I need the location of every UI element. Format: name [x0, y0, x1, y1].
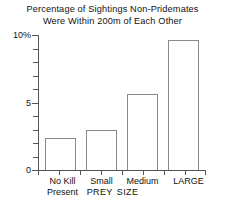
y-tick-4	[33, 116, 38, 117]
bar-small	[86, 130, 117, 171]
y-tick-9	[33, 49, 38, 50]
bar-medium	[127, 94, 158, 170]
x-tick-6	[164, 170, 165, 175]
category-label-large-line-1: LARGE	[173, 176, 204, 186]
y-tick-label-10: 10%	[13, 30, 31, 40]
y-tick-1	[33, 157, 38, 158]
y-tick-3	[33, 130, 38, 131]
x-tick-0	[38, 170, 39, 175]
chart-title: Percentage of Sightings Non-Pridemates W…	[0, 3, 225, 27]
chart-title-line-1: Percentage of Sightings Non-Pridemates	[0, 3, 225, 15]
y-tick-10	[32, 35, 38, 36]
x-tick-8	[205, 170, 206, 175]
x-tick-4	[122, 170, 123, 175]
y-tick-7	[33, 76, 38, 77]
bar-no-kill-present	[45, 138, 76, 170]
x-axis-title-word-2: SIZE	[117, 187, 139, 197]
y-tick-label-0: 0	[26, 165, 31, 175]
y-tick-2	[33, 143, 38, 144]
x-axis-title-word-1: PREY	[87, 187, 113, 197]
category-label-large: LARGE	[156, 176, 221, 187]
y-tick-5	[32, 103, 38, 104]
chart-title-line-2: Were Within 200m of Each Other	[0, 15, 225, 27]
bar-chart-figure: Percentage of Sightings Non-Pridemates W…	[0, 0, 225, 210]
x-tick-2	[80, 170, 81, 175]
y-tick-6	[33, 89, 38, 90]
bar-large	[168, 40, 199, 170]
y-tick-8	[33, 62, 38, 63]
x-axis-title: PREYSIZE	[0, 187, 225, 197]
plot-area: 10% 5 0	[38, 35, 205, 170]
x-tick-5	[143, 170, 144, 175]
category-label-medium-line-1: Medium	[126, 176, 158, 186]
x-tick-7	[185, 170, 186, 175]
y-axis-line	[38, 35, 39, 171]
y-tick-label-5: 5	[26, 98, 31, 108]
x-tick-3	[101, 170, 102, 175]
x-tick-1	[59, 170, 60, 175]
